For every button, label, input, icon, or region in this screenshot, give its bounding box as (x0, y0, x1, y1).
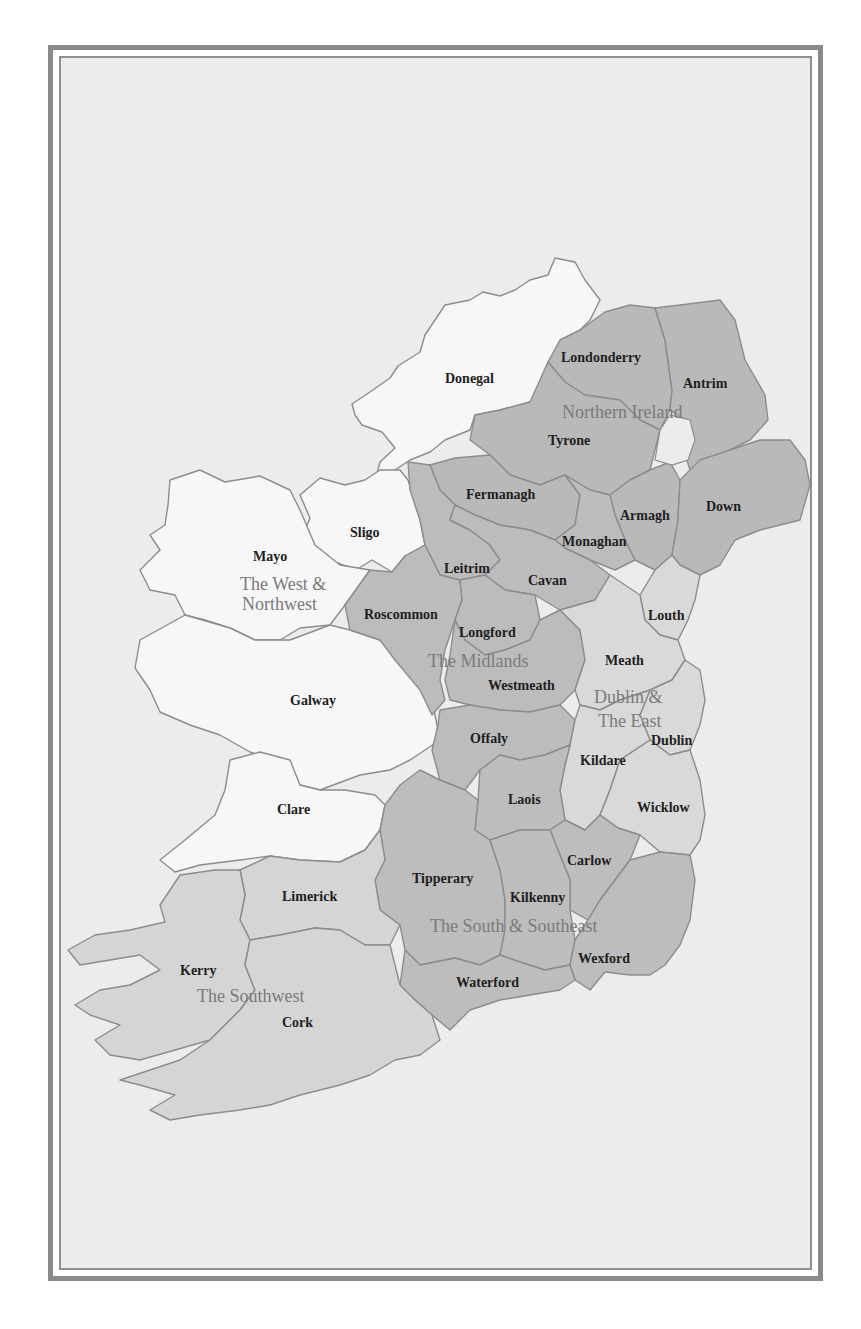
county-label-laois: Laois (508, 792, 541, 807)
county-label-kerry: Kerry (180, 963, 217, 978)
county-label-leitrim: Leitrim (444, 561, 490, 576)
county-label-dublin: Dublin (651, 733, 692, 748)
county-label-tipperary: Tipperary (412, 871, 473, 886)
county-label-limerick: Limerick (282, 889, 337, 904)
county-label-roscommon: Roscommon (364, 607, 438, 622)
county-label-monaghan: Monaghan (562, 534, 627, 549)
ireland-map: Northern Ireland The West & Northwest Th… (0, 0, 861, 1329)
county-label-clare: Clare (277, 802, 310, 817)
county-label-fermanagh: Fermanagh (466, 487, 535, 502)
county-label-armagh: Armagh (620, 508, 670, 523)
county-label-cavan: Cavan (528, 573, 567, 588)
county-label-longford: Longford (459, 625, 516, 640)
region-label-dublin-east-line2: The East (598, 711, 661, 731)
region-label-northern-ireland: Northern Ireland (562, 402, 682, 422)
county-label-mayo: Mayo (253, 549, 287, 564)
county-label-meath: Meath (605, 653, 644, 668)
county-label-louth: Louth (648, 608, 685, 623)
region-label-dublin-east-line1: Dublin & (594, 687, 663, 707)
county-label-down: Down (706, 499, 741, 514)
county-label-carlow: Carlow (567, 853, 612, 868)
county-label-wicklow: Wicklow (637, 800, 691, 815)
region-label-midlands: The Midlands (428, 651, 529, 671)
county-label-offaly: Offaly (470, 731, 508, 746)
region-label-south-southeast: The South & Southeast (430, 916, 598, 936)
region-label-west-northwest-line2: Northwest (242, 594, 317, 614)
county-label-donegal: Donegal (445, 371, 494, 386)
county-label-kilkenny: Kilkenny (510, 890, 565, 905)
region-label-southwest: The Southwest (197, 986, 305, 1006)
county-label-galway: Galway (290, 693, 336, 708)
county-label-waterford: Waterford (456, 975, 519, 990)
county-label-londonderry: Londonderry (561, 350, 641, 365)
county-label-wexford: Wexford (578, 951, 630, 966)
county-label-sligo: Sligo (350, 525, 380, 540)
county-label-kildare: Kildare (580, 753, 626, 768)
county-label-tyrone: Tyrone (548, 433, 590, 448)
region-label-west-northwest-line1: The West & (240, 574, 326, 594)
county-label-westmeath: Westmeath (488, 678, 555, 693)
county-label-cork: Cork (282, 1015, 313, 1030)
county-label-antrim: Antrim (683, 376, 728, 391)
